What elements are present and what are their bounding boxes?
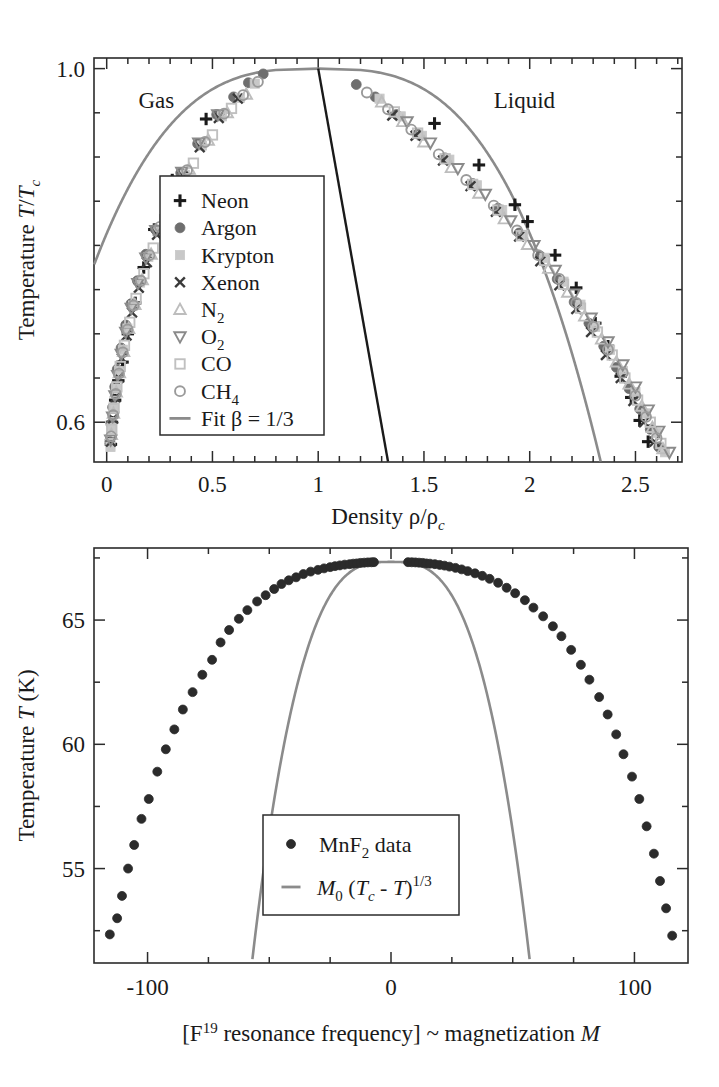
gas-label: Gas [138, 88, 174, 113]
top-legend: NeonArgonKryptonXenonN2O2COCH4Fit β = 1/… [160, 176, 324, 435]
legend-marker-circle-filled [175, 223, 185, 233]
datapoint-mnf2 [105, 930, 114, 939]
bottom-plot-area: -1000100656055 [62, 548, 688, 1000]
datapoint-mnf2 [178, 705, 187, 714]
datapoint-mnf2 [539, 612, 548, 621]
datapoint-Argon [351, 80, 361, 90]
datapoint-Neon [200, 113, 212, 125]
datapoint-mnf2 [170, 725, 179, 734]
datapoint-mnf2 [161, 745, 170, 754]
top-xtick-label: 0 [101, 472, 113, 497]
datapoint-mnf2 [153, 767, 162, 776]
datapoint-mnf2 [576, 660, 585, 669]
svg-text:Temperature T/Tc: Temperature T/Tc [14, 180, 43, 341]
datapoint-mnf2 [567, 645, 576, 654]
top-xtick-label: 2.5 [621, 472, 650, 497]
liquid-label: Liquid [494, 88, 556, 113]
legend-label: Krypton [201, 243, 274, 268]
datapoint-mnf2 [494, 578, 503, 587]
datapoint-mnf2 [208, 655, 217, 664]
datapoint-mnf2 [502, 583, 511, 592]
datapoint-mnf2 [234, 614, 243, 623]
bottom-y-axis-title: Temperature T (K) [14, 669, 39, 841]
datapoint-mnf2 [529, 603, 538, 612]
datapoint-mnf2 [261, 591, 270, 600]
datapoint-mnf2 [520, 596, 529, 605]
top-y-axis-title: Temperature T/Tc [14, 180, 43, 341]
top-xtick-label: 1.5 [410, 472, 439, 497]
top-plot-area: 00.511.522.51.00.6GasLiquid [56, 57, 682, 497]
bottom-ytick-label: 55 [62, 857, 85, 882]
legend-label: CO [201, 351, 232, 376]
datapoint-mnf2 [635, 795, 644, 804]
datapoint-mnf2 [656, 877, 665, 886]
top-xtick-label: 1 [312, 472, 324, 497]
legend-label: Fit β = 1/3 [201, 406, 294, 431]
bottom-xtick-label: 0 [385, 975, 397, 1000]
datapoint-mnf2 [628, 772, 637, 781]
legend-marker-circle-filled [287, 840, 296, 849]
datapoint-mnf2 [585, 675, 594, 684]
datapoint-mnf2 [557, 632, 566, 641]
datapoint-Neon [473, 159, 485, 171]
datapoint-mnf2 [124, 864, 133, 873]
datapoint-mnf2 [668, 931, 677, 940]
datapoint-mnf2 [642, 822, 651, 831]
datapoint-mnf2 [619, 750, 628, 759]
legend-marker-square-filled [175, 250, 184, 259]
critical-isochore-line [318, 69, 388, 462]
datapoint-mnf2 [662, 904, 671, 913]
datapoint-mnf2 [137, 814, 146, 823]
datapoint-CH4 [362, 88, 372, 98]
legend-label: Neon [201, 188, 249, 213]
datapoint-mnf2 [130, 840, 139, 849]
bottom-ytick-label: 60 [62, 732, 85, 757]
datapoint-Neon [549, 249, 561, 261]
datapoint-mnf2 [198, 670, 207, 679]
datapoint-mnf2 [548, 622, 557, 631]
datapoint-mnf2 [485, 574, 494, 583]
datapoint-mnf2 [243, 606, 252, 615]
top-xtick-label: 2 [524, 472, 536, 497]
datapoint-mnf2 [118, 891, 127, 900]
scientific-figure: 00.511.522.51.00.6GasLiquidTemperature T… [0, 0, 719, 1087]
bottom-x-axis-title: [F19 resonance frequency] ~ magnetizatio… [182, 1020, 601, 1046]
legend-label: Argon [201, 215, 257, 240]
top-ytick-label: 0.6 [56, 410, 85, 435]
top-ytick-label: 1.0 [56, 57, 85, 82]
bottom-legend: MnF2 dataM0 (Tc - T)1/3 [263, 815, 459, 915]
datapoint-mnf2 [188, 688, 197, 697]
datapoint-mnf2 [595, 693, 604, 702]
datapoint-mnf2 [649, 849, 658, 858]
bottom-legend-box [263, 815, 459, 915]
datapoint-mnf2 [216, 638, 225, 647]
legend-label: Xenon [201, 270, 260, 295]
datapoint-mnf2 [253, 597, 262, 606]
datapoint-mnf2 [144, 795, 153, 804]
datapoint-mnf2 [511, 589, 520, 598]
bottom-panel-mnf2-curve: -1000100656055Temperature T (K)[F19 reso… [0, 527, 719, 1087]
datapoint-mnf2 [369, 558, 378, 567]
datapoint-mnf2 [225, 626, 234, 635]
bottom-xtick-label: 100 [617, 975, 652, 1000]
svg-text:Temperature T (K): Temperature T (K) [14, 669, 39, 841]
top-panel-coexistence-curve: 00.511.522.51.00.6GasLiquidTemperature T… [0, 0, 719, 530]
bottom-ytick-label: 65 [62, 608, 85, 633]
datapoint-mnf2 [113, 914, 122, 923]
bottom-xtick-label: -100 [126, 975, 168, 1000]
datapoint-mnf2 [612, 730, 621, 739]
top-xtick-label: 0.5 [198, 472, 227, 497]
datapoint-mnf2 [603, 710, 612, 719]
bottom-tick-labels: -1000100656055 [62, 608, 652, 1000]
datapoint-Neon [428, 117, 440, 129]
